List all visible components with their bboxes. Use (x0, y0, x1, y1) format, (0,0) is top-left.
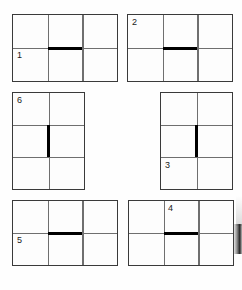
panel-2: 2 (127, 14, 233, 82)
grid-line-horizontal (13, 157, 84, 158)
scan-artifact-upper (236, 196, 242, 226)
panel-1-grid (13, 15, 117, 81)
panel-2-label: 2 (132, 18, 137, 27)
panel-4-label: 4 (168, 204, 173, 213)
panel-4-grid (129, 201, 233, 265)
grid-line-horizontal (161, 157, 232, 158)
panel-1-label: 1 (17, 51, 22, 60)
panel-1: 1 (12, 14, 118, 82)
panel-6-label: 6 (17, 96, 22, 105)
emphasis-segment-horizontal (163, 47, 198, 50)
scan-artifact (233, 224, 242, 254)
panel-3-grid (161, 93, 232, 189)
panel-2-grid (128, 15, 232, 81)
emphasis-segment-horizontal (164, 232, 199, 235)
emphasis-segment-vertical (195, 125, 198, 157)
diagram-canvas: 1 2 6 3 (0, 0, 242, 290)
emphasis-segment-horizontal (48, 232, 83, 235)
panel-5-label: 5 (17, 236, 22, 245)
panel-5-grid (13, 201, 117, 265)
panel-5: 5 (12, 200, 118, 266)
panel-6: 6 (12, 92, 85, 190)
panel-4: 4 (128, 200, 234, 266)
panel-3: 3 (160, 92, 233, 190)
emphasis-segment-vertical (47, 125, 50, 157)
panel-6-grid (13, 93, 84, 189)
panel-3-label: 3 (165, 161, 170, 170)
emphasis-segment-horizontal (48, 47, 83, 50)
